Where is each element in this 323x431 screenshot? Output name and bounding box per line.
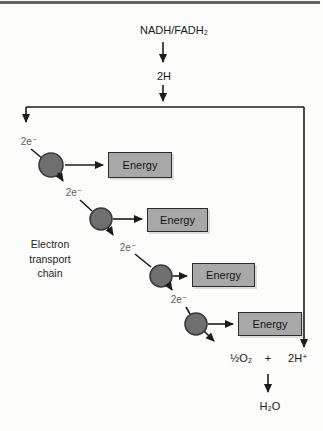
cascade-arrow-1 [58, 173, 63, 181]
energy-box-4: Energy [238, 312, 302, 336]
substrate-label: NADH/FADH₂ [140, 24, 208, 36]
carrier-node-1 [39, 153, 63, 177]
cascade-line-3 [135, 254, 151, 267]
electron-step-label-1: 2e⁻ [21, 136, 37, 147]
cascade-line-4 [186, 307, 190, 314]
energy-box-1: Energy [108, 152, 172, 178]
electron-step-label-2: 2e⁻ [66, 187, 82, 198]
electron-step-label-4: 2e⁻ [171, 294, 187, 305]
electron-step-label-3: 2e⁻ [120, 242, 136, 253]
water-label: H₂O [260, 400, 281, 412]
cascade-arrow-3 [168, 284, 172, 290]
cascade-arrow-4 [204, 331, 214, 341]
proton-label: 2H⁺ [288, 352, 308, 365]
energy-box-3-label: Energy [206, 269, 241, 281]
oxygen-label: ½O₂ [230, 352, 252, 364]
cascade-arrow-2 [108, 227, 113, 235]
cascade-line-2 [80, 200, 92, 211]
plus-sign: + [265, 352, 271, 364]
hydrogen-carrier-label: 2H [157, 70, 171, 82]
energy-box-1-label: Energy [123, 159, 158, 171]
energy-box-3: Energy [192, 263, 255, 287]
electron-transport-chain-label: Electron transport chain [29, 237, 70, 281]
energy-box-2: Energy [147, 208, 208, 232]
electron-transport-diagram: NADH/FADH₂ 2H 2e⁻ 2e⁻ 2e⁻ 2e⁻ Electron t… [0, 0, 323, 431]
energy-box-2-label: Energy [160, 214, 195, 226]
energy-box-4-label: Energy [253, 318, 288, 330]
